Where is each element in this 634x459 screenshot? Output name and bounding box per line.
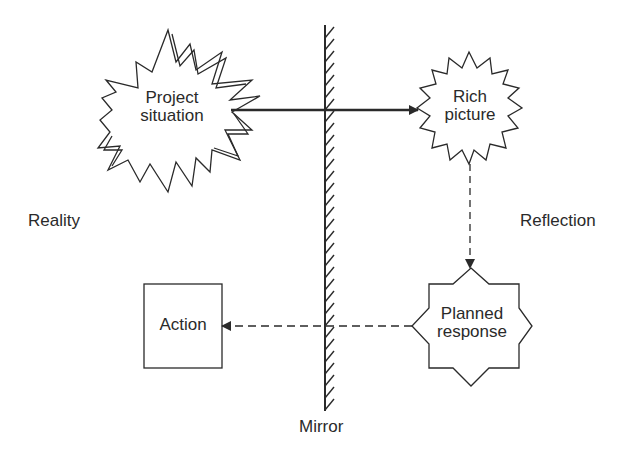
node-label-line: Rich [432, 88, 508, 106]
node-label-line: situation [128, 107, 216, 125]
node-label-line: Project [128, 89, 216, 107]
node-label-line: picture [432, 106, 508, 124]
node-label-line: response [424, 323, 520, 341]
mirror-divider [325, 25, 334, 411]
node-label-line: Planned [424, 305, 520, 323]
diagram-canvas: Reality Reflection Mirror Project situat… [0, 0, 634, 459]
region-label-reflection: Reflection [520, 212, 596, 230]
node-label-action: Action [144, 316, 222, 334]
mirror-label: Mirror [299, 418, 343, 436]
node-label-planned-response: Planned response [424, 305, 520, 341]
region-label-reality: Reality [28, 212, 80, 230]
node-label-rich-picture: Rich picture [432, 88, 508, 124]
node-label-project-situation: Project situation [128, 89, 216, 125]
